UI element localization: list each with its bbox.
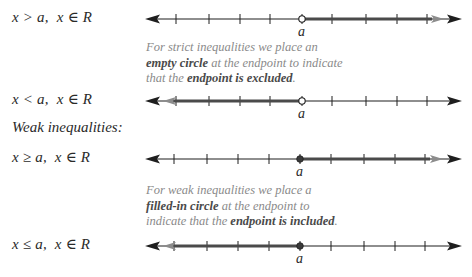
inequality-text: x ≥ a,	[12, 149, 47, 165]
note-emphasis: endpoint is excluded	[187, 71, 293, 85]
inequality-label-x-lt-a: x < a, x ∈ R	[12, 90, 92, 108]
note-emphasis: filled-in circle	[146, 199, 219, 213]
note-text: that the	[146, 71, 187, 85]
note-line: For strict inequalities we place an	[146, 40, 342, 56]
note-emphasis: empty circle	[146, 56, 208, 70]
domain-text: x ∈ R	[55, 149, 90, 165]
domain-text: x ∈ R	[55, 236, 90, 252]
number-line-x-gt-a	[145, 14, 462, 24]
endpoint-label-a: a	[298, 106, 305, 122]
inequality-text: x < a,	[12, 91, 49, 107]
inequality-label-x-le-a: x ≤ a, x ∈ R	[12, 235, 90, 253]
note-text: indicate that the	[146, 214, 230, 228]
domain-text: x ∈ R	[57, 91, 92, 107]
inequality-label-x-ge-a: x ≥ a, x ∈ R	[12, 148, 90, 166]
number-line-x-le-a	[145, 241, 462, 251]
filled-circle-icon	[297, 156, 304, 163]
number-line-x-lt-a	[145, 96, 462, 106]
note-line: that the endpoint is excluded.	[146, 71, 342, 87]
filled-circle-icon	[297, 243, 304, 250]
note-text: at the endpoint to	[219, 199, 310, 213]
note-text: at the endpoint to indicate	[208, 56, 342, 70]
open-circle-icon	[299, 98, 305, 104]
note-weak-inequalities: For weak inequalities we place a filled-…	[146, 183, 338, 230]
note-line: For weak inequalities we place a	[146, 183, 338, 199]
note-text: .	[293, 71, 296, 85]
open-circle-icon	[299, 16, 305, 22]
endpoint-label-a: a	[298, 24, 305, 40]
note-strict-inequalities: For strict inequalities we place an empt…	[146, 40, 342, 87]
endpoint-label-a: a	[296, 164, 303, 180]
number-line-x-ge-a	[145, 154, 462, 164]
endpoint-label-a: a	[296, 251, 303, 267]
note-line: indicate that the endpoint is included.	[146, 214, 338, 230]
note-emphasis: endpoint is included	[230, 214, 334, 228]
heading-weak-inequalities: Weak inequalities:	[12, 119, 123, 136]
note-text: .	[335, 214, 338, 228]
inequality-text: x ≤ a,	[12, 236, 47, 252]
note-line: empty circle at the endpoint to indicate	[146, 56, 342, 72]
note-line: filled-in circle at the endpoint to	[146, 199, 338, 215]
